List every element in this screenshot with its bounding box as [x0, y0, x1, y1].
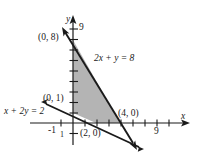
y-tick-label-9: 9 — [79, 23, 84, 33]
point-label-2-0: (2, 0) — [80, 129, 101, 139]
y-axis-label: y — [66, 15, 70, 25]
point-label-0-1: (0, 1) — [43, 94, 64, 104]
line-2x-plus-y-arrowhead-upper — [62, 27, 69, 37]
x-tick-label-9: 9 — [154, 127, 159, 137]
line-label-2x-plus-y-equals-8: 2x + y = 8 — [94, 54, 134, 64]
graph-figure: y x 9 9 -1 1 (0, 8) (0, 1) (2, 0) (4, 0)… — [0, 0, 199, 160]
y-tick-label-1: 1 — [60, 131, 64, 139]
line-label-x-plus-2y-equals-2: x + 2y = 2 — [4, 107, 44, 117]
x-tick-label-neg1: -1 — [48, 126, 56, 136]
x-axis-label: x — [181, 112, 185, 122]
point-label-0-8: (0, 8) — [38, 33, 59, 43]
point-label-4-0: (4, 0) — [118, 109, 139, 119]
